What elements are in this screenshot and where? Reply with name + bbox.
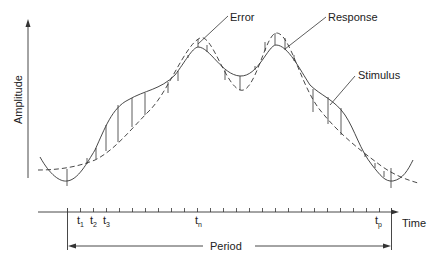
tick-labels: t1 t2 t3 tn tp — [77, 214, 382, 229]
stimulus-label: Stimulus — [358, 69, 401, 81]
stimulus-response-diagram: Amplitude — [0, 0, 441, 262]
tick-label-tn: tn — [195, 214, 202, 228]
period-indicator: Period — [68, 208, 392, 252]
amplitude-axis-label: Amplitude — [12, 75, 24, 124]
tick-label-t2: t2 — [90, 214, 97, 228]
period-label: Period — [210, 240, 242, 252]
time-axis-label: Time — [402, 217, 426, 229]
stimulus-curve — [40, 45, 413, 181]
response-label: Response — [328, 11, 378, 23]
amplitude-axis: Amplitude — [12, 19, 31, 178]
error-label: Error — [230, 11, 255, 23]
tick-label-t3: t3 — [103, 214, 110, 228]
leader-lines — [198, 16, 355, 105]
tick-label-t1: t1 — [77, 214, 84, 228]
time-axis-ticks — [81, 208, 380, 212]
response-curve — [38, 33, 418, 183]
tick-label-tp: tp — [375, 214, 382, 229]
